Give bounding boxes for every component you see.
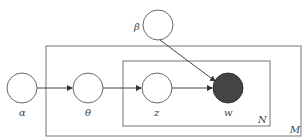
node-alpha [7, 73, 37, 103]
node-beta [143, 10, 173, 40]
label-theta: θ [85, 107, 91, 118]
label-plate-inner: N [257, 114, 268, 125]
node-w [213, 73, 243, 103]
label-z: z [153, 107, 160, 118]
label-w: w [224, 107, 233, 118]
label-beta: β [133, 21, 140, 32]
lda-plate-diagram: β α θ z w N M [0, 0, 307, 140]
label-alpha: α [19, 107, 26, 118]
node-theta [73, 73, 103, 103]
label-plate-outer: M [289, 124, 301, 135]
node-z [142, 73, 172, 103]
